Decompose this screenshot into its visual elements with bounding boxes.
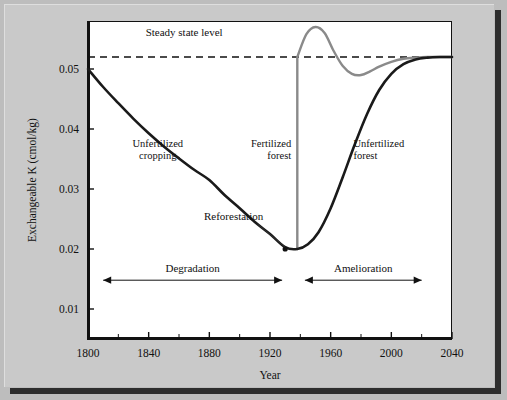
steady-state-label: Steady state level	[146, 26, 223, 38]
x-axis-tick-labels: 1800184018801920196020002040	[77, 347, 464, 359]
x-tick-label: 2000	[380, 347, 403, 359]
x-tick-label: 1800	[77, 347, 100, 359]
chart-svg: 0.010.020.030.040.05 1800184018801920196…	[0, 0, 507, 400]
reforestation-label: Reforestation	[204, 210, 264, 222]
degradation-arrow-label: Degradation	[165, 262, 220, 274]
figure-container: 0.010.020.030.040.05 1800184018801920196…	[0, 0, 507, 400]
unfertilized-cropping-label-line2: cropping	[139, 150, 177, 161]
unfertilized-forest-label-line1: Unfertilized	[353, 138, 404, 149]
x-axis-title: Year	[259, 369, 280, 381]
amelioration-arrow-label: Amelioration	[334, 262, 393, 274]
unfertilized-forest-label-line2: forest	[353, 150, 377, 161]
y-tick-label: 0.01	[59, 303, 79, 315]
y-tick-label: 0.05	[59, 63, 79, 75]
chart-plot-area: 0.010.020.030.040.05 1800184018801920196…	[0, 0, 507, 400]
y-axis-title: Exchangeable K (cmol/kg)	[26, 118, 39, 242]
x-tick-label: 1840	[137, 347, 160, 359]
fertilized-forest-label-line2: forest	[267, 150, 291, 161]
x-tick-label: 2040	[441, 347, 464, 359]
y-tick-label: 0.02	[59, 243, 79, 255]
x-tick-label: 1960	[319, 347, 342, 359]
y-tick-label: 0.04	[59, 123, 79, 135]
unfertilized-cropping-label-line1: Unfertilized	[132, 138, 183, 149]
x-tick-label: 1920	[259, 347, 282, 359]
x-tick-label: 1880	[198, 347, 221, 359]
fertilized-forest-label-line1: Fertilized	[251, 138, 292, 149]
y-axis-tick-labels: 0.010.020.030.040.05	[59, 63, 79, 315]
reforestation-point-marker	[283, 246, 288, 251]
y-tick-label: 0.03	[59, 183, 79, 195]
